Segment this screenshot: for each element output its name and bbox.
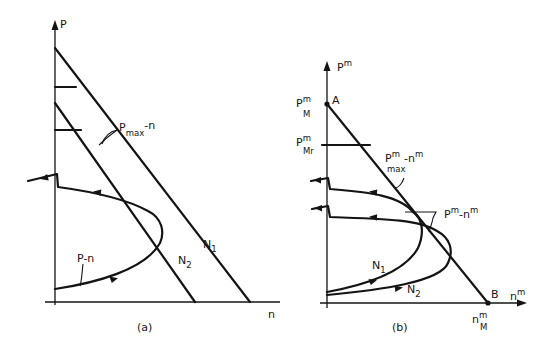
point-b-label: B bbox=[491, 288, 499, 301]
diagram-canvas: P n Pmax-n P-n N1 N2 (a) bbox=[0, 0, 555, 354]
n2-label: N2 bbox=[178, 254, 192, 270]
curve-arrow-icon bbox=[314, 205, 322, 212]
pm-nm-label: Pm-nm bbox=[444, 205, 478, 221]
pmax-leader-2 bbox=[99, 130, 117, 145]
p-axis-label: P bbox=[60, 18, 67, 31]
p-n-leader bbox=[80, 264, 83, 286]
point-a-label: A bbox=[332, 94, 340, 107]
pmax-nm-sub: max bbox=[387, 164, 406, 174]
n2-label-b: N2 bbox=[407, 283, 421, 299]
n-axis-label: n bbox=[268, 308, 275, 321]
n1-label-b: N1 bbox=[372, 259, 386, 275]
pm-axis-label: Pm bbox=[337, 58, 352, 74]
panel-a: P n Pmax-n P-n N1 N2 (a) bbox=[28, 18, 280, 334]
pm-axis-arrow-icon bbox=[324, 61, 331, 71]
line-a-b bbox=[327, 104, 488, 303]
pmax-nm-label: Pm-nm bbox=[385, 149, 423, 165]
curve-n2 bbox=[312, 206, 451, 295]
p-n-label: P-n bbox=[77, 252, 94, 265]
n1-label: N1 bbox=[203, 238, 217, 254]
point-a-dot bbox=[324, 101, 329, 106]
curve-arrow-icon bbox=[313, 177, 321, 184]
pm-m-sub: M bbox=[303, 109, 310, 119]
pm-m-label: Pm bbox=[296, 94, 311, 110]
pmax-n-label: Pmax-n bbox=[119, 119, 155, 138]
nm-axis-arrow-icon bbox=[517, 300, 527, 307]
caption-b: (b) bbox=[392, 321, 408, 334]
caption-a: (a) bbox=[137, 321, 152, 334]
panel-b: Pm nm A B Pm M Pm Mr Pm-nm max Pm-nm N1 bbox=[296, 58, 527, 334]
point-b-dot bbox=[485, 300, 490, 305]
nm-m-sub: M bbox=[480, 322, 487, 332]
p-axis-arrow-icon bbox=[52, 20, 59, 30]
pm-mr-sub: Mr bbox=[303, 146, 314, 156]
pmax-leader-b bbox=[395, 178, 404, 188]
